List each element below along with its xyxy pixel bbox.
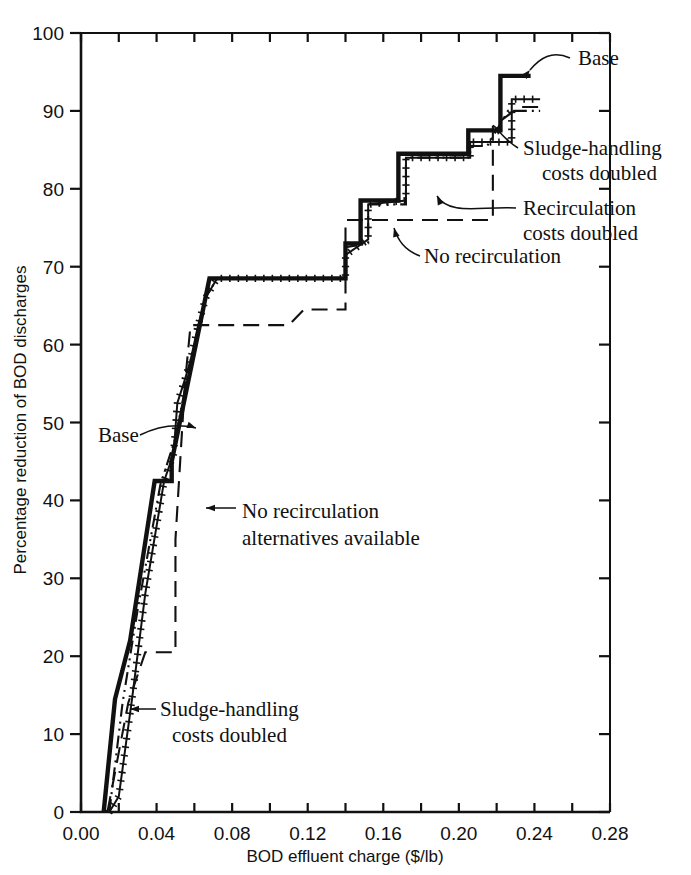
annotation-arrowhead <box>391 227 400 237</box>
y-axis-tick-label: 70 <box>43 257 64 278</box>
series-hatch-mark <box>141 595 148 596</box>
y-axis-label: Percentage reduction of BOD discharges <box>11 265 30 574</box>
annotation-no-recirculation: No recirculation <box>424 244 562 268</box>
y-axis-tick-label: 100 <box>32 23 64 44</box>
annotation-leader-lines <box>130 55 570 713</box>
series-hatch-mark <box>133 662 140 663</box>
series-hatch-mark <box>124 730 131 731</box>
x-axis-tick-label: 0.20 <box>440 823 477 844</box>
y-axis-tick-label: 10 <box>43 724 64 745</box>
y-axis-tick-label: 30 <box>43 568 64 589</box>
annotation-recirc-right-line2: costs doubled <box>523 221 638 245</box>
series-hatch-mark <box>117 780 124 781</box>
series-hatch-mark <box>123 738 130 739</box>
y-axis-tick-label: 0 <box>53 802 64 823</box>
series-hatch-mark <box>173 411 180 412</box>
series-hatch-mark <box>120 763 127 764</box>
series-hatch-mark <box>132 671 139 672</box>
annotation-no-recirc-alts-line2: alternatives available <box>242 526 420 550</box>
annotation-sludge-left-line1: Sludge-handling <box>160 697 299 721</box>
annotation-sludge-right-line2: costs doubled <box>542 161 657 185</box>
y-axis-tick-label: 40 <box>43 490 64 511</box>
series-hatch-mark <box>134 654 141 655</box>
series-hatch-mark <box>116 789 123 790</box>
series-hatch-mark <box>154 519 161 520</box>
x-axis-label: BOD effluent charge ($/lb) <box>246 847 443 866</box>
annotation-base-right: Base <box>578 46 619 70</box>
series-hatch-mark <box>143 586 150 587</box>
x-axis-tick-label: 0.12 <box>289 823 326 844</box>
series-hatch-mark <box>151 536 158 537</box>
y-axis-tick-label: 20 <box>43 646 64 667</box>
x-axis-tick-label: 0.00 <box>63 823 100 844</box>
series-hatch-mark <box>153 528 160 529</box>
annotation-leader <box>530 55 570 70</box>
series-hatch-mark <box>136 637 143 638</box>
series-hatch-mark <box>155 511 162 512</box>
x-axis-tick-label: 0.04 <box>138 823 175 844</box>
series-hatch-mark <box>172 420 179 421</box>
series-hatch-mark <box>148 553 155 554</box>
annotation-base-left: Base <box>98 423 139 447</box>
series-hatch-mark <box>140 603 147 604</box>
series-hatch-mark <box>171 437 178 438</box>
annotation-arrowhead <box>206 505 215 512</box>
annotation-recirc-right-line1: Recirculation <box>523 196 637 220</box>
chart-figure: 0.000.040.080.120.160.200.240.2801020304… <box>0 0 691 875</box>
annotation-sludge-left-line2: costs doubled <box>172 723 287 747</box>
series-hatch-mark <box>137 629 144 630</box>
series-hatch-mark <box>404 197 405 204</box>
annotation-leader <box>394 228 420 256</box>
x-axis-tick-label: 0.24 <box>516 823 553 844</box>
x-axis-tick-label: 0.08 <box>214 823 251 844</box>
series-hatch-mark <box>125 721 132 722</box>
y-axis-tick-label: 90 <box>43 101 64 122</box>
series-hatch-mark <box>138 620 145 621</box>
chart-canvas: 0.000.040.080.120.160.200.240.2801020304… <box>0 0 691 875</box>
series-hatch-mark <box>122 747 129 748</box>
annotation-arrowhead <box>186 422 197 431</box>
annotation-no-recirc-alts-line1: No recirculation <box>242 499 380 523</box>
annotation-arrowhead <box>434 195 444 206</box>
series-hatch-mark <box>135 646 142 647</box>
annotation-sludge-right-line1: Sludge-handling <box>523 136 662 160</box>
y-axis-tick-label: 50 <box>43 413 64 434</box>
y-axis-tick-label: 80 <box>43 179 64 200</box>
series-hatch-mark <box>150 544 157 545</box>
series-hatch-mark <box>118 772 125 773</box>
y-axis-tick-label: 60 <box>43 335 64 356</box>
series-hatch-mark <box>174 403 181 404</box>
series-hatch-mark <box>379 200 380 207</box>
series-hatch-mark <box>396 198 397 205</box>
annotation-leader <box>437 196 516 209</box>
series-hatch-mark <box>121 755 128 756</box>
series-hatch-mark <box>146 570 153 571</box>
series-hatch-mark <box>144 578 151 579</box>
series-hatch-mark <box>126 713 133 714</box>
series-hatch-mark <box>139 612 146 613</box>
x-axis-tick-label: 0.28 <box>592 823 629 844</box>
series-hatch-mark <box>171 445 178 446</box>
series-hatch-mark <box>177 394 184 396</box>
x-axis-tick-label: 0.16 <box>365 823 402 844</box>
series-hatch-mark <box>129 696 136 697</box>
series-hatch-mark <box>147 561 154 562</box>
